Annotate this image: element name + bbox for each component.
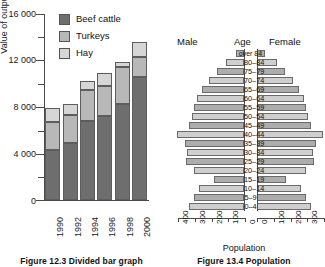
age-band-label: 55–59 bbox=[244, 103, 257, 112]
male-bar bbox=[197, 95, 244, 103]
female-bar bbox=[257, 113, 308, 121]
pyramid-row: 65–69 bbox=[163, 85, 325, 94]
figure-pair-page: Value of output (£) 16 000 12 000 8 000 … bbox=[0, 0, 325, 267]
age-band-label: 5–9 bbox=[244, 193, 257, 202]
pyramid-row: 70–74 bbox=[163, 76, 325, 85]
x-tick bbox=[195, 218, 196, 222]
y-tick-label: 4 000 bbox=[13, 150, 36, 159]
x-axis-line bbox=[44, 200, 149, 201]
legend-swatch-icon bbox=[59, 48, 70, 59]
legend-item-turkeys: Turkeys bbox=[59, 29, 121, 43]
male-bar bbox=[194, 194, 244, 202]
age-band-label: 45–49 bbox=[244, 121, 257, 130]
x-tick bbox=[307, 218, 308, 222]
y-tick-label: 0 bbox=[31, 197, 36, 206]
male-bar bbox=[199, 185, 244, 193]
female-bar bbox=[257, 95, 304, 103]
male-bar bbox=[202, 86, 244, 94]
age-band-label: 20–24 bbox=[244, 166, 257, 175]
figure-caption: Figure 12.3 Divided bar graph bbox=[0, 256, 163, 266]
x-tick-label: 0 bbox=[249, 220, 257, 224]
pyramid-row: 50–54 bbox=[163, 112, 325, 121]
age-band-label: 40–44 bbox=[244, 130, 257, 139]
x-tick bbox=[228, 218, 229, 222]
x-tick-label: 0 bbox=[261, 220, 269, 224]
figure-population-pyramid: Male Age Female over 8480–8475–7970–7465… bbox=[163, 0, 325, 267]
bar-segment-turkeys bbox=[80, 90, 95, 121]
male-column-header: Male bbox=[177, 36, 198, 47]
male-bar bbox=[185, 140, 244, 148]
female-column-header: Female bbox=[269, 36, 301, 47]
bar-segment-beef-cattle bbox=[97, 116, 112, 200]
age-band-label: 30–34 bbox=[244, 148, 257, 157]
pyramid-row: 0–4 bbox=[163, 202, 325, 211]
age-column-header: Age bbox=[234, 36, 251, 47]
y-tick-major bbox=[36, 60, 44, 61]
age-band-label: 0–4 bbox=[244, 202, 257, 211]
female-bar bbox=[257, 131, 323, 139]
pyramid-row: 30–34 bbox=[163, 148, 325, 157]
bar-segment-turkeys bbox=[132, 57, 147, 77]
bar-segment-beef-cattle bbox=[45, 150, 60, 200]
y-tick-label: 8 000 bbox=[13, 103, 36, 112]
x-tick bbox=[257, 218, 258, 222]
y-tick-major bbox=[36, 107, 44, 108]
bar-segment-hay bbox=[45, 108, 60, 122]
bar-segment-beef-cattle bbox=[63, 143, 78, 200]
y-axis-tick-labels: 16 000 12 000 8 000 4 000 0 bbox=[0, 0, 36, 267]
female-bar bbox=[257, 194, 306, 202]
age-band-label: 35–39 bbox=[244, 139, 257, 148]
male-bar bbox=[192, 113, 244, 121]
male-bar bbox=[189, 203, 244, 211]
female-bar bbox=[257, 158, 314, 166]
female-bar bbox=[257, 149, 313, 157]
legend-label: Beef cattle bbox=[76, 14, 121, 24]
age-band-label: 75–79 bbox=[244, 67, 257, 76]
male-bar bbox=[226, 59, 244, 67]
figure-caption: Figure 13.4 Population bbox=[163, 256, 325, 266]
age-band-label: 10–14 bbox=[244, 184, 257, 193]
age-band-label: 60–64 bbox=[244, 94, 257, 103]
pyramid-row: 10–14 bbox=[163, 184, 325, 193]
pyramid-row: 5–9 bbox=[163, 193, 325, 202]
age-band-label: 65–69 bbox=[244, 85, 257, 94]
male-bar bbox=[177, 131, 244, 139]
x-tick bbox=[178, 218, 179, 222]
bar-segment-hay bbox=[80, 81, 95, 89]
x-tick-label: 1992 bbox=[74, 217, 83, 237]
age-band-label: 70–74 bbox=[244, 76, 257, 85]
female-bar bbox=[257, 203, 311, 211]
pyramid-row: 40–44 bbox=[163, 130, 325, 139]
figure-divided-bar-graph: Value of output (£) 16 000 12 000 8 000 … bbox=[0, 0, 163, 267]
male-bar bbox=[189, 122, 244, 130]
age-band-label: 15–19 bbox=[244, 175, 257, 184]
bar-segment-hay bbox=[97, 73, 112, 86]
age-band-label: 80–84 bbox=[244, 58, 257, 67]
male-bar bbox=[194, 167, 244, 175]
x-tick-label: 1998 bbox=[126, 217, 135, 237]
y-tick-major bbox=[36, 14, 44, 15]
pyramid-rows: over 8480–8475–7970–7465–6960–6455–5950–… bbox=[163, 49, 325, 211]
pyramid-row: 45–49 bbox=[163, 121, 325, 130]
y-tick-major bbox=[36, 154, 44, 155]
bar-segment-beef-cattle bbox=[80, 121, 95, 200]
pyramid-row: 55–59 bbox=[163, 103, 325, 112]
x-tick-label: 100 bbox=[278, 211, 286, 224]
legend-label: Turkeys bbox=[76, 31, 109, 41]
pyramid-row: 25–29 bbox=[163, 157, 325, 166]
x-tick bbox=[245, 218, 246, 222]
x-tick-label: 1990 bbox=[56, 217, 65, 237]
age-band-label: over 84 bbox=[237, 49, 264, 58]
x-tick bbox=[291, 218, 292, 222]
bar-segment-turkeys bbox=[115, 67, 130, 103]
bar-segment-turkeys bbox=[63, 115, 78, 143]
legend-item-beef-cattle: Beef cattle bbox=[59, 12, 121, 26]
x-tick-label: 300 bbox=[199, 211, 207, 224]
pyramid-row: over 84 bbox=[163, 49, 325, 58]
pyramid-row: 15–19 bbox=[163, 175, 325, 184]
legend-swatch-icon bbox=[59, 31, 70, 42]
x-tick bbox=[212, 218, 213, 222]
male-bar bbox=[217, 68, 244, 76]
x-tick-label: 2000 bbox=[143, 217, 152, 237]
y-tick-label: 12 000 bbox=[8, 56, 36, 65]
